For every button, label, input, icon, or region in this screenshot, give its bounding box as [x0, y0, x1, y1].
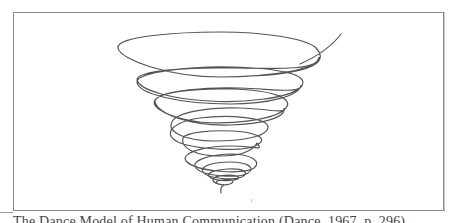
helix-spiral: [0, 0, 455, 223]
figure-caption: The Dance Model of Human Communication (…: [13, 213, 405, 223]
